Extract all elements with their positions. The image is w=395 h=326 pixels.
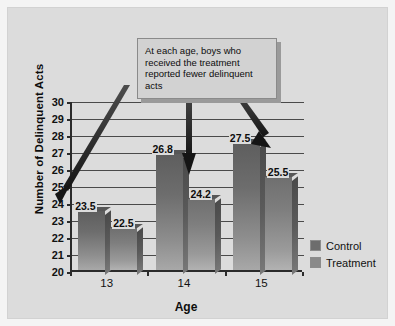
legend-swatch-treatment [310, 257, 321, 268]
chart-panel: 2021222324252627282930 Number of Delinqu… [7, 7, 388, 319]
y-axis-tick [67, 102, 72, 104]
y-axis-tick-label: 27 [42, 148, 64, 159]
gridline [72, 119, 304, 120]
y-axis-tick [67, 255, 72, 257]
y-axis-tick [67, 170, 72, 172]
y-axis-tick [67, 204, 72, 206]
bar-value-label: 22.5 [112, 217, 134, 229]
x-axis-title: Age [70, 300, 302, 314]
bar-face [110, 228, 137, 271]
bar-value-label: 27.5 [229, 132, 251, 144]
bar-side [215, 198, 221, 274]
bar-treatment-14 [188, 199, 215, 270]
bar-treatment-15 [265, 177, 292, 271]
bar-face [233, 143, 260, 271]
y-axis-tick [67, 187, 72, 189]
bar-value-label: 23.5 [74, 200, 96, 212]
bar-treatment-13 [110, 228, 137, 271]
y-axis-tick-label: 28 [42, 131, 64, 142]
y-axis-tick-label: 26 [42, 165, 64, 176]
y-axis-tick-label: 29 [42, 114, 64, 125]
legend-label-treatment: Treatment [326, 257, 376, 269]
y-axis-tick-label: 20 [42, 267, 64, 278]
gridline [72, 136, 304, 137]
bar-face [78, 211, 105, 271]
bar-control-13 [78, 211, 105, 271]
x-axis-tick-label: 13 [87, 277, 127, 289]
bar-face [156, 154, 183, 270]
plot-area: 23.522.526.824.227.525.5 [70, 102, 302, 272]
y-axis-tick [67, 119, 72, 121]
legend-label-control: Control [326, 240, 361, 252]
y-axis-title: Number of Delinquent Acts [33, 54, 45, 224]
bar-face [265, 177, 292, 271]
legend-item-treatment[interactable]: Treatment [310, 254, 376, 271]
y-axis-tick-label: 24 [42, 199, 64, 210]
bar-face [188, 199, 215, 270]
y-axis-tick [67, 238, 72, 240]
bar-side [292, 176, 298, 274]
x-axis-tick [70, 272, 72, 276]
y-axis-tick-label: 25 [42, 182, 64, 193]
callout-annotation: At each age, boys who received the treat… [137, 38, 277, 99]
x-axis-tick [147, 272, 149, 276]
chart-legend: Control Treatment [310, 237, 376, 271]
legend-item-control[interactable]: Control [310, 237, 376, 254]
y-axis-tick-label: 22 [42, 233, 64, 244]
x-axis-tick [302, 272, 304, 276]
y-axis-tick-label: 21 [42, 250, 64, 261]
bar-side [137, 227, 143, 274]
x-axis-tick [225, 272, 227, 276]
chart-figure: 2021222324252627282930 Number of Delinqu… [0, 0, 395, 326]
x-axis-tick-label: 15 [241, 277, 281, 289]
bar-value-label: 24.2 [190, 188, 212, 200]
legend-swatch-control [310, 240, 321, 251]
y-axis-tick [67, 221, 72, 223]
bar-value-label: 25.5 [267, 166, 289, 178]
x-axis-tick-label: 14 [164, 277, 204, 289]
y-axis-tick-label: 30 [42, 97, 64, 108]
y-axis-tick-label: 23 [42, 216, 64, 227]
bar-control-14 [156, 154, 183, 270]
y-axis-tick [67, 153, 72, 155]
bar-control-15 [233, 143, 260, 271]
bar-value-label: 26.8 [152, 143, 174, 155]
y-axis-tick [67, 136, 72, 138]
